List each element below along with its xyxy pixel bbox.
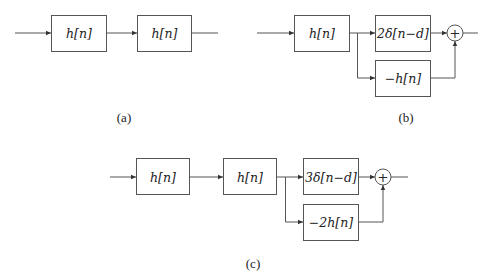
block-label: −2h[n]	[309, 215, 353, 230]
block-label: 2δ[n−d]	[376, 26, 429, 41]
block-diagrams: h[n] h[n] (a) h[n] 2δ[n−d] −h[n] +	[0, 0, 488, 277]
block-label: h[n]	[150, 170, 176, 185]
connector-arrow	[359, 185, 384, 222]
block-label: 3δ[n−d]	[305, 170, 357, 185]
caption-b: (b)	[398, 110, 413, 125]
summing-junction: +	[447, 25, 463, 41]
summing-junction: +	[375, 169, 391, 185]
block-label: h[n]	[309, 26, 335, 41]
block-h2: h[n]	[138, 16, 192, 52]
block-neg-2h: −2h[n]	[304, 205, 359, 241]
block-h1: h[n]	[52, 16, 107, 52]
caption-c: (c)	[246, 256, 260, 271]
connector-arrow	[431, 41, 456, 78]
block-delay: 2δ[n−d]	[376, 16, 431, 52]
block-label: h[n]	[152, 26, 178, 41]
block-label: h[n]	[237, 170, 263, 185]
block-delay: 3δ[n−d]	[304, 159, 359, 195]
diagram-b: h[n] 2δ[n−d] −h[n] + (b)	[257, 16, 478, 126]
branch-arrow	[286, 177, 304, 222]
branch-arrow	[358, 33, 376, 78]
plus-icon: +	[450, 26, 461, 41]
block-h1: h[n]	[137, 159, 190, 195]
block-label: −h[n]	[385, 71, 421, 86]
block-label: h[n]	[66, 26, 92, 41]
block-h2: h[n]	[224, 159, 277, 195]
diagram-c: h[n] h[n] 3δ[n−d] −2h[n] + (c)	[110, 159, 408, 272]
block-neg-h: −h[n]	[376, 61, 431, 97]
caption-a: (a)	[117, 110, 131, 125]
plus-icon: +	[378, 170, 389, 185]
diagram-a: h[n] h[n] (a)	[15, 16, 218, 126]
block-h: h[n]	[295, 16, 350, 52]
